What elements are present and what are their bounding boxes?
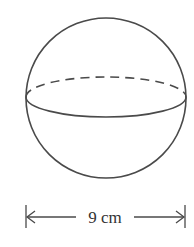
equator-visible-half (26, 97, 186, 117)
sphere (26, 18, 186, 178)
equator-hidden-half (26, 77, 186, 97)
sphere-diagram: 9 cm (0, 0, 194, 247)
sphere-outline (26, 18, 186, 178)
dimension-label: 9 cm (88, 208, 122, 227)
